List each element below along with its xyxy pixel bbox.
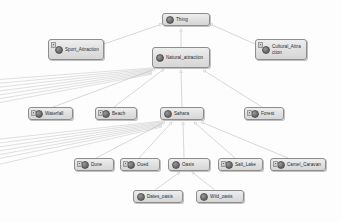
class-node-label: Sport_Attraction [65, 47, 100, 52]
node-content: Salt_Lake [222, 161, 259, 169]
class-node-waterfall[interactable]: Waterfall [28, 107, 73, 120]
class-node-dune[interactable]: Dune [74, 158, 114, 171]
node-content: Waterfall [32, 110, 69, 118]
class-node-label: Thing [176, 17, 206, 22]
owl-class-icon [262, 46, 270, 54]
edge-forest-natural_attraction [203, 70, 262, 107]
class-node-label: Waterfall [45, 111, 69, 116]
owl-class-icon [277, 161, 285, 169]
collapsed-subtree-icon[interactable] [123, 161, 128, 167]
collapsed-subtree-icon[interactable] [31, 110, 36, 116]
class-node-label: Wild_oasis [210, 194, 240, 199]
class-node-camel_caravan[interactable]: Camel_Caravan [270, 158, 326, 171]
node-content: Wild_oasis [200, 193, 240, 201]
collapsed-subtree-icon[interactable] [247, 110, 252, 116]
edge-sport_attraction-thing [104, 24, 162, 44]
edge-wild_oasis-oasis [192, 172, 215, 190]
owl-class-icon [102, 110, 110, 118]
class-node-sport_attraction[interactable]: Sport_Attraction [48, 39, 104, 60]
owl-class-icon [127, 161, 135, 169]
edge-cultural_attraction-thing [210, 24, 255, 44]
edge-sahara-natural_attraction [181, 70, 182, 107]
collapsed-subtree-icon[interactable] [221, 161, 226, 167]
collapsed-subtree-icon[interactable] [258, 42, 263, 48]
class-node-label: Sahara [174, 111, 200, 116]
class-node-forest[interactable]: Forest [244, 107, 284, 120]
class-node-oasis[interactable]: Oasis [168, 158, 210, 171]
class-node-cultural_attraction[interactable]: Cultural_Attraction [255, 39, 307, 60]
class-node-label: Dates_oasis [147, 194, 179, 199]
collapsed-subtree-icon[interactable] [273, 161, 278, 167]
owl-class-icon [55, 46, 63, 54]
edge-oasis-sahara [183, 122, 184, 158]
class-node-label: Salt_Lake [235, 162, 259, 167]
owl-class-icon [251, 110, 259, 118]
collapsed-subtree-icon[interactable] [98, 110, 103, 116]
class-node-wild_oasis[interactable]: Wild_oasis [196, 190, 244, 203]
class-node-beach[interactable]: Beach [95, 107, 137, 120]
class-node-label: Dune [91, 162, 110, 167]
owl-class-icon [35, 110, 43, 118]
node-content: Cultural_Attraction [259, 44, 303, 54]
owl-class-icon [200, 193, 208, 201]
node-content: Oasis [172, 161, 206, 169]
node-content: Camel_Caravan [274, 161, 322, 169]
ontology-graph-canvas: ThingSport_AttractionNatural_attractionC… [0, 0, 341, 222]
node-content: Sport_Attraction [52, 46, 100, 54]
node-content: Natural_attraction [156, 54, 206, 62]
node-content: Beach [99, 110, 133, 118]
node-content: Forest [248, 110, 280, 118]
node-content: Sahara [164, 110, 200, 118]
class-node-label: Natural_attraction [166, 55, 206, 60]
node-content: Dune [78, 161, 110, 169]
class-node-dates_oasis[interactable]: Dates_oasis [133, 190, 183, 203]
class-node-label: Beach [112, 111, 133, 116]
class-node-label: Oasis [182, 162, 206, 167]
node-content: Oued [124, 161, 156, 169]
class-node-label: Forest [261, 111, 280, 116]
owl-class-icon [225, 161, 233, 169]
owl-class-icon [172, 161, 180, 169]
owl-class-icon [81, 161, 89, 169]
node-content: Thing [166, 16, 206, 24]
owl-class-icon [164, 110, 172, 118]
node-content: Dates_oasis [137, 193, 179, 201]
owl-class-icon [166, 16, 174, 24]
class-node-natural_attraction[interactable]: Natural_attraction [152, 47, 210, 68]
edge-dates_oasis-oasis [155, 172, 180, 190]
class-node-sahara[interactable]: Sahara [160, 107, 204, 120]
class-node-thing[interactable]: Thing [162, 13, 210, 26]
class-node-label: Camel_Caravan [287, 162, 322, 167]
collapsed-subtree-icon[interactable] [77, 161, 82, 167]
class-node-salt_lake[interactable]: Salt_Lake [218, 158, 263, 171]
collapsed-subtree-icon[interactable] [51, 42, 56, 48]
class-node-label: Cultural_Attraction [272, 44, 303, 54]
owl-class-icon [156, 54, 164, 62]
owl-class-icon [137, 193, 145, 201]
class-node-label: Oued [137, 162, 156, 167]
edge-waterfall-natural_attraction [53, 69, 155, 107]
class-node-oued[interactable]: Oued [120, 158, 160, 171]
